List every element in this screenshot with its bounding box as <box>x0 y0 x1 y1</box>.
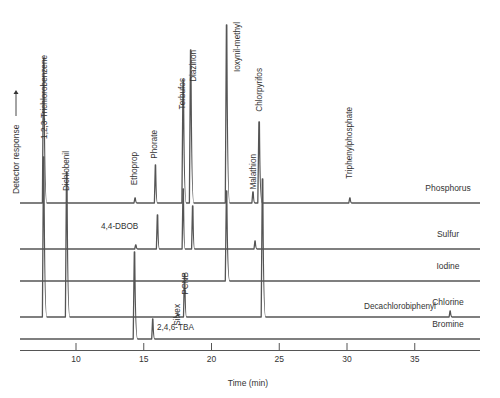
peak-label-2-4-6-tba: 2,4,6-TBA <box>157 323 194 332</box>
trace-label-sulfur: Sulfur <box>437 229 459 239</box>
peak-label-phorate: Phorate <box>150 130 159 159</box>
x-axis-ticks: 101520253035 <box>71 343 419 364</box>
trace-sulfur <box>20 189 480 249</box>
trace-iodine <box>20 191 480 281</box>
peak-label-text: Malathion <box>249 154 258 190</box>
x-tick-label: 15 <box>139 354 149 364</box>
peak-label-diazinon: Diazinon <box>189 50 198 82</box>
trace-bromine <box>20 252 480 339</box>
x-tick-label: 10 <box>71 354 81 364</box>
peak-label-decachlorobiphenyl: Decachlorobiphenyl <box>364 302 436 311</box>
trace-label-bromine: Bromine <box>432 319 464 329</box>
peak-label-chlorpyrifos: Chlorpyrifos <box>255 68 264 112</box>
peak-label-dichlobenil: Dichlobenil <box>62 151 71 191</box>
trace-label-chlorine: Chlorine <box>432 297 464 307</box>
peak-label-text: PCNB <box>181 271 190 294</box>
peak-label-ioxynil-methyl: Ioxynil-methyl <box>233 22 242 72</box>
x-tick-label: 25 <box>275 354 285 364</box>
peak-label-text: Dichlobenil <box>62 151 71 191</box>
peak-label-text: Ethoprop <box>130 152 139 186</box>
peak-labels: 1,2,3-TrichlorobenzeneDichlobenilEthopro… <box>40 22 436 332</box>
peak-label-1-2-3-trichlorobenzene: 1,2,3-Trichlorobenzene <box>40 55 49 139</box>
peak-label-text: Triphenylphosphate <box>345 107 354 179</box>
peak-label-terbufos: Terbufos <box>178 78 187 109</box>
y-axis-label: Detector response <box>11 124 21 194</box>
y-axis-label-group: Detector response <box>11 90 21 194</box>
x-tick-label: 35 <box>410 354 420 364</box>
peak-label-ethoprop: Ethoprop <box>130 152 139 186</box>
peak-label-text: Terbufos <box>178 78 187 109</box>
x-tick-label: 20 <box>207 354 217 364</box>
peak-label-text: Chlorpyrifos <box>255 68 264 112</box>
peak-label-pcnb: PCNB <box>181 271 190 294</box>
trace-label-phosphorus: Phosphorus <box>425 183 470 193</box>
trace-label-iodine: Iodine <box>436 261 459 271</box>
x-axis-label: Time (min) <box>228 378 268 388</box>
chromatogram-chart: 1,2,3-TrichlorobenzeneDichlobenilEthopro… <box>0 0 500 398</box>
peak-label-text: 1,2,3-Trichlorobenzene <box>40 55 49 139</box>
peak-label-4-4-dbob: 4,4-DBOB <box>101 222 139 231</box>
peak-label-text: Diazinon <box>189 50 198 82</box>
x-tick-label: 30 <box>342 354 352 364</box>
peak-label-triphenylphosphate: Triphenylphosphate <box>345 107 354 179</box>
peak-label-malathion: Malathion <box>249 154 258 190</box>
arrow-head-icon <box>14 90 19 94</box>
peak-label-text: Phorate <box>150 130 159 159</box>
peak-label-text: Ioxynil-methyl <box>233 22 242 72</box>
